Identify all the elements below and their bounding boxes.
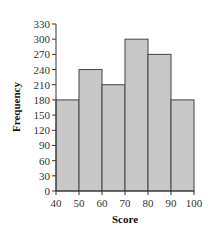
x-tick-label: 100 (186, 197, 203, 209)
x-axis-title: Score (112, 213, 138, 225)
y-axis: 0306090120150180210240270300330 (34, 18, 57, 197)
histogram-bar (102, 85, 125, 191)
histogram-bar (79, 70, 102, 191)
x-tick-label: 80 (143, 197, 155, 209)
x-tick-label: 60 (97, 197, 109, 209)
x-tick-label: 50 (74, 197, 86, 209)
y-tick-label: 300 (34, 33, 51, 45)
y-tick-label: 60 (39, 155, 51, 167)
y-tick-label: 0 (45, 185, 51, 197)
y-axis-title: Frequency (10, 82, 22, 132)
x-tick-label: 90 (166, 197, 178, 209)
histogram-bar (148, 54, 171, 191)
y-tick-label: 210 (34, 79, 51, 91)
y-tick-label: 330 (34, 18, 51, 30)
histogram-chart: 0306090120150180210240270300330 40506070… (0, 0, 212, 238)
x-axis: 405060708090100 (51, 191, 203, 209)
x-tick-label: 40 (51, 197, 63, 209)
y-tick-label: 150 (34, 109, 51, 121)
histogram-bar (56, 100, 79, 191)
histogram-bar (171, 100, 194, 191)
y-tick-label: 30 (39, 170, 51, 182)
bars-group (56, 39, 194, 191)
x-tick-label: 70 (120, 197, 132, 209)
y-tick-label: 180 (34, 94, 51, 106)
y-tick-label: 90 (39, 139, 51, 151)
y-tick-label: 270 (34, 48, 51, 60)
y-tick-label: 120 (34, 124, 51, 136)
y-tick-label: 240 (34, 64, 51, 76)
histogram-bar (125, 39, 148, 191)
